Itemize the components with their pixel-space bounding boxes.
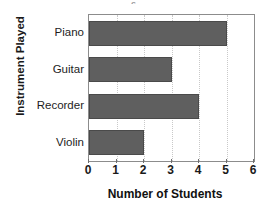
gridline-6: [254, 15, 255, 161]
category-label-piano: Piano: [55, 25, 84, 39]
x-tick-label-4: 4: [188, 163, 208, 177]
x-tick-label-3: 3: [161, 163, 181, 177]
x-axis-ticks: 0123456: [88, 163, 255, 179]
bar-recorder: [89, 94, 199, 119]
category-label-violin: Violin: [56, 135, 84, 149]
x-tick-label-5: 5: [216, 163, 236, 177]
x-axis-title: Number of Students: [60, 187, 270, 201]
x-tick-label-0: 0: [78, 163, 98, 177]
category-label-recorder: Recorder: [37, 98, 84, 112]
bar-chart: s Instrument Played PianoGuitarRecorderV…: [0, 0, 276, 216]
bar-violin: [89, 130, 144, 155]
gridline-5: [227, 15, 228, 161]
bar-guitar: [89, 57, 172, 82]
plot-area: [88, 14, 255, 162]
x-tick-label-1: 1: [106, 163, 126, 177]
bar-piano: [89, 21, 227, 46]
x-tick-label-6: 6: [243, 163, 263, 177]
y-axis-category-labels: PianoGuitarRecorderViolin: [18, 14, 84, 162]
category-label-guitar: Guitar: [53, 62, 84, 76]
x-tick-label-2: 2: [133, 163, 153, 177]
clipped-title-fragment: s: [131, 0, 145, 4]
